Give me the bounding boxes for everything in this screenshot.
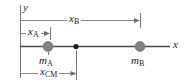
x-b-arrowhead-icon <box>134 18 140 23</box>
figure-canvas <box>0 0 187 84</box>
x-a-subscript: A <box>33 30 39 39</box>
mass-a-dot <box>43 42 53 52</box>
mass-a-label: mA <box>39 55 53 68</box>
x-axis-label: x <box>173 39 178 50</box>
center-of-mass-figure: y x xB xA xCM mA mB <box>0 0 187 84</box>
x-a-arrowhead-icon <box>44 31 50 36</box>
y-axis-label: y <box>23 2 28 13</box>
x-b-subscript: B <box>74 17 79 26</box>
x-cm-arrowhead-icon <box>71 71 77 76</box>
mass-a-subscript: A <box>47 59 53 68</box>
mass-b-label: mB <box>131 55 144 68</box>
mass-b-subscript: B <box>139 59 144 68</box>
mass-b-dot <box>135 42 145 52</box>
x-cm-subscript: CM <box>45 70 57 79</box>
x-b-label: xB <box>67 13 81 26</box>
x-a-label: xA <box>26 26 41 39</box>
center-of-mass-dot <box>73 44 78 49</box>
